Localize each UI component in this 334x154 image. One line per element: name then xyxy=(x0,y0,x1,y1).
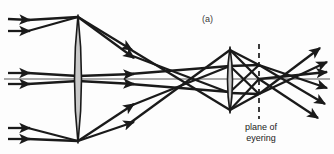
exit-rays-group xyxy=(259,48,327,118)
mid-ray-axial-a xyxy=(78,74,134,76)
cross-ray-5 xyxy=(230,93,259,94)
ray-diagram-canvas: (a) plane of eyering xyxy=(0,0,334,154)
exit-ray-down-3 xyxy=(259,79,318,118)
objective-lens xyxy=(75,15,82,143)
incoming-ray-axial-1b xyxy=(28,73,78,76)
mid-ray-bot-b xyxy=(78,122,134,141)
eyepiece-lens xyxy=(228,47,233,113)
eyepiece-lens-body xyxy=(228,47,233,113)
mid-ray-top-b xyxy=(78,17,134,58)
panel-label: (a) xyxy=(202,14,213,24)
mid-ray-bot-a xyxy=(78,104,134,141)
objective-lens-body xyxy=(75,15,82,143)
cross-ray-6 xyxy=(230,94,259,110)
mid-ray-axial-b xyxy=(78,81,134,84)
plane-of-eyering-label-line2: eyering xyxy=(246,133,276,143)
incoming-ray-upper-1 xyxy=(8,19,30,20)
cross-ray-1 xyxy=(230,50,259,65)
eyering-crossing-rays-group xyxy=(230,50,259,110)
optical-ray-diagram-figure: (a) plane of eyering xyxy=(0,0,334,154)
incoming-ray-axial-2b xyxy=(28,81,78,84)
plane-of-eyering-label-line1: plane of xyxy=(245,122,278,132)
